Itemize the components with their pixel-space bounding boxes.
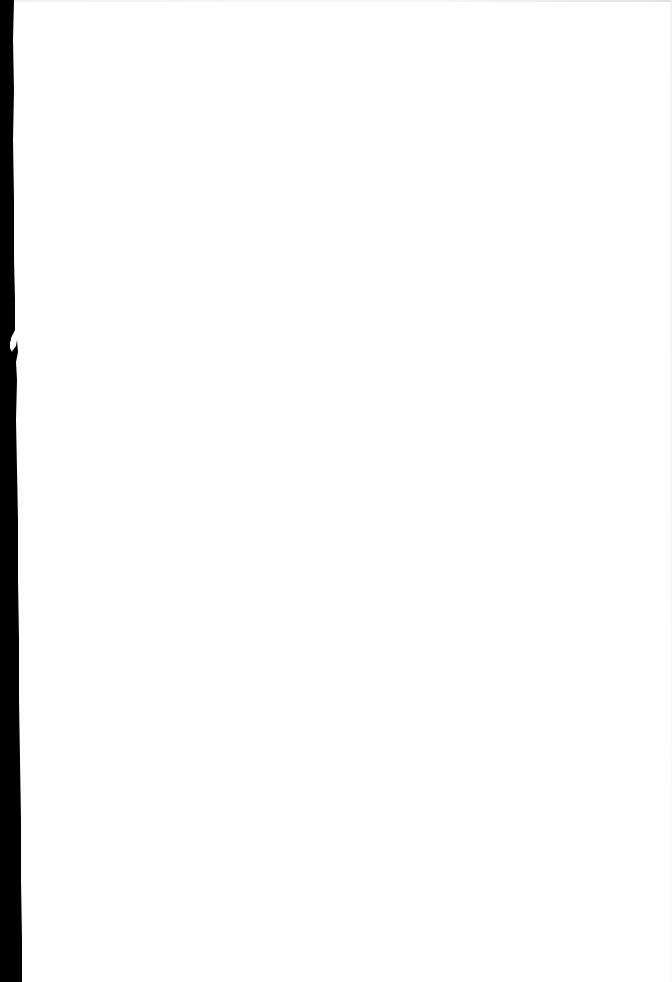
scanner-edge-margin (0, 0, 22, 982)
blank-page-area (22, 0, 672, 982)
scanned-page (0, 0, 672, 982)
